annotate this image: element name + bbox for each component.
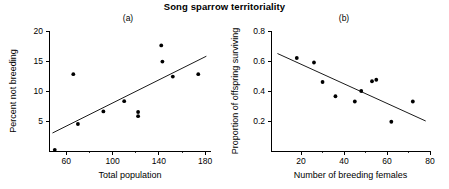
data-point [53,148,57,152]
figure-container: Song sparrow territoriality (a) 51015206… [0,0,449,189]
data-point [196,72,200,76]
data-point [370,79,374,83]
data-point [161,60,165,64]
x-axis-title: Number of breeding females [294,170,408,180]
data-point [295,56,299,60]
x-tick-label: 40 [339,156,349,166]
x-tick-label: 100 [106,156,120,166]
x-tick-label: 20 [296,156,306,166]
data-point [159,44,163,48]
y-tick-label: 5 [38,116,43,126]
data-point [353,100,357,104]
data-point [312,61,316,65]
x-tick-label: 60 [62,156,72,166]
axis-spines [49,31,211,151]
x-tick-label: 80 [425,156,435,166]
y-axis-title: Percent not breeding [8,49,18,133]
y-tick-label: 0.2 [253,116,265,126]
data-point [359,89,363,93]
x-tick-label: 180 [198,156,212,166]
data-point [334,94,338,98]
y-tick-label: 0.6 [253,56,265,66]
regression-line [52,56,206,133]
data-point [389,120,393,124]
y-tick-label: 20 [34,26,44,36]
y-tick-label: 15 [34,56,44,66]
data-point [76,122,80,126]
data-point [71,72,75,76]
x-tick-label: 60 [382,156,392,166]
axis-spines [271,31,430,151]
y-tick-label: 10 [34,86,44,96]
panel-a: (a) 510152060100140180Total populationPe… [0,0,224,189]
x-tick-label: 140 [152,156,166,166]
data-point [101,110,105,114]
y-tick-label: 0.8 [253,26,265,36]
data-point [411,100,415,104]
x-axis-title: Total population [98,170,161,180]
data-point [136,114,140,118]
y-tick-label: 0.4 [253,86,265,96]
panel-b: (b) 0.20.40.60.820406080Number of breedi… [224,0,448,189]
data-point [122,99,126,103]
regression-line [277,54,425,122]
panel-b-plot: 0.20.40.60.820406080Number of breeding f… [224,0,448,189]
y-axis-title: Proportion of offspring surviving [230,28,240,154]
data-point [321,80,325,84]
data-point [171,75,175,79]
data-point [374,78,378,82]
data-point [136,110,140,114]
panel-a-plot: 510152060100140180Total populationPercen… [0,0,224,189]
